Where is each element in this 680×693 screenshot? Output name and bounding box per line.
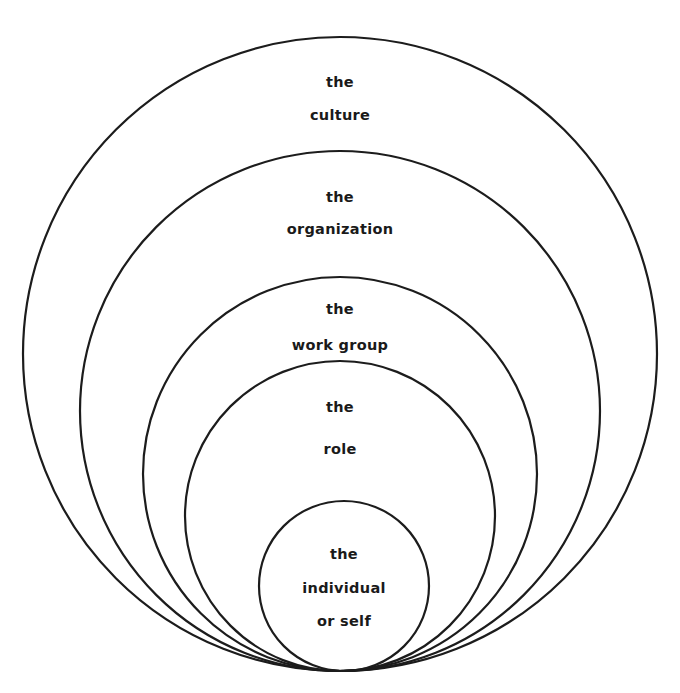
individual-label-line3: or self — [4, 614, 680, 629]
culture-label-line1: the — [0, 75, 680, 90]
role-label-line1: the — [0, 400, 680, 415]
organization-label-line1: the — [0, 190, 680, 205]
work-group-label-line2: work group — [0, 338, 680, 353]
role-label-line2: role — [0, 442, 680, 457]
organization-label-line2: organization — [0, 222, 680, 237]
culture-label-line2: culture — [0, 108, 680, 123]
individual-label-line1: the — [4, 547, 680, 562]
culture-circle — [23, 37, 657, 671]
individual-label-line2: individual — [4, 581, 680, 596]
work-group-label-line1: the — [0, 302, 680, 317]
